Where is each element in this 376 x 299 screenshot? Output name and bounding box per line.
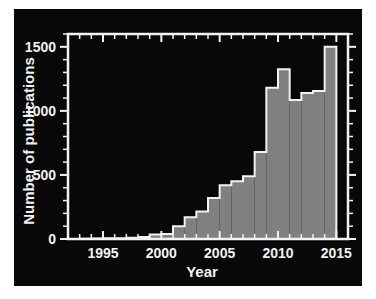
x-tick-label: 1995 <box>87 245 118 261</box>
bar <box>231 181 243 239</box>
bar <box>185 217 197 239</box>
x-tick-label: 2005 <box>204 245 235 261</box>
bar <box>278 69 290 239</box>
x-axis-title: Year <box>186 263 218 280</box>
bar <box>290 100 302 239</box>
y-tick-label: 1500 <box>25 39 56 55</box>
x-tick-label: 2015 <box>321 245 352 261</box>
bar <box>243 176 255 239</box>
bar <box>196 211 208 239</box>
bar <box>173 226 185 239</box>
bar <box>301 93 313 239</box>
figure-canvas: 19952000200520102015 050010001500 Year N… <box>0 0 376 299</box>
bar <box>255 152 267 239</box>
y-axis-title: Number of publications <box>20 57 37 225</box>
bar <box>208 198 220 239</box>
x-tick-label: 2010 <box>262 245 293 261</box>
bar <box>313 91 325 239</box>
bars-group <box>80 47 337 239</box>
y-tick-label: 0 <box>48 231 56 247</box>
bar <box>266 88 278 239</box>
bar <box>220 185 232 239</box>
publications-bar-chart: 19952000200520102015 050010001500 Year N… <box>14 9 362 286</box>
chart-panel: 19952000200520102015 050010001500 Year N… <box>14 9 362 286</box>
bar <box>325 47 337 239</box>
x-tick-label: 2000 <box>146 245 177 261</box>
x-axis-tick-labels: 19952000200520102015 <box>87 245 352 261</box>
